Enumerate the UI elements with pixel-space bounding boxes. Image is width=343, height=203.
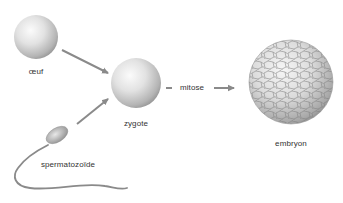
egg-cell bbox=[14, 15, 58, 59]
embryo bbox=[249, 40, 333, 124]
arrow-sperm-to-zygote bbox=[77, 99, 108, 124]
sperm-label: spermatozoïde bbox=[41, 160, 95, 169]
arrow-egg-to-zygote bbox=[62, 50, 108, 73]
egg-label: œuf bbox=[29, 67, 44, 76]
mitosis-label: mitose bbox=[180, 83, 204, 92]
diagram-graphics bbox=[0, 0, 343, 203]
zygote-label: zygote bbox=[124, 119, 148, 128]
zygote-cell bbox=[111, 58, 161, 108]
fertilization-diagram: œuf zygote mitose embryon spermatozoïde bbox=[0, 0, 343, 203]
embryo-label: embryon bbox=[275, 139, 307, 148]
sperm-cell bbox=[15, 123, 127, 189]
